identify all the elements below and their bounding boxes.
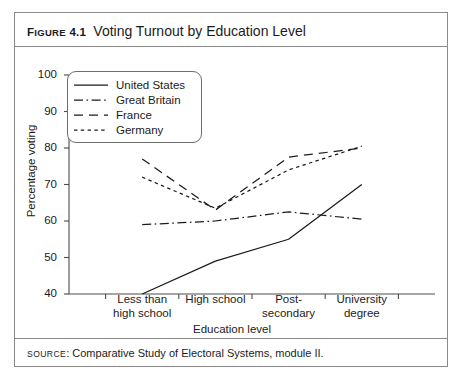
figure-label-rest: IGURE (34, 27, 66, 38)
legend-item-germany: Germany (73, 122, 195, 137)
legend-item-great-britain: Great Britain (73, 92, 195, 107)
figure-number-label: FIGURE 4.1 (27, 26, 86, 38)
legend-swatch-dotted (73, 124, 109, 136)
y-tick-label: 50 (25, 252, 57, 264)
legend-item-united-states: United States (73, 77, 195, 92)
y-tick-label: 100 (25, 69, 57, 81)
series-line-great-britain (142, 212, 362, 225)
chart-plot-area: 100908070605040 Percentage voting Less t… (15, 47, 449, 339)
source-word-rest: OURCE (33, 349, 66, 359)
legend-label: France (116, 109, 152, 121)
series-line-germany (142, 146, 362, 208)
legend-swatch-solid (73, 79, 109, 91)
source-text: : Comparative Study of Electoral Systems… (66, 347, 323, 359)
series-line-united-states (142, 185, 362, 295)
legend-swatch-dashed (73, 109, 109, 121)
chart-series-group (142, 146, 362, 294)
source-note: SOURCE: Comparative Study of Electoral S… (27, 347, 324, 359)
chart-y-axis-title: Percentage voting (25, 111, 37, 231)
x-tick-label-line: University (307, 293, 417, 307)
legend-label: Great Britain (116, 94, 181, 106)
figure-number: 4.1 (69, 26, 86, 38)
page-title: Voting Turnout by Education Level (93, 23, 305, 39)
legend-label: United States (116, 79, 185, 91)
figure-caption: FIGURE 4.1Voting Turnout by Education Le… (27, 22, 437, 44)
x-tick-label-line: degree (307, 307, 417, 321)
figure-container: FIGURE 4.1Voting Turnout by Education Le… (14, 12, 448, 367)
legend-swatch-dashdot (73, 94, 109, 106)
chart-legend: United StatesGreat BritainFranceGermany (67, 71, 202, 143)
legend-item-france: France (73, 107, 195, 122)
legend-label: Germany (116, 124, 163, 136)
chart-x-axis-title: Education level (15, 323, 449, 335)
x-tick-label: Universitydegree (307, 293, 417, 320)
x-tick-label-line: high school (87, 307, 197, 321)
source-divider (15, 338, 447, 339)
y-tick-label: 40 (25, 288, 57, 300)
